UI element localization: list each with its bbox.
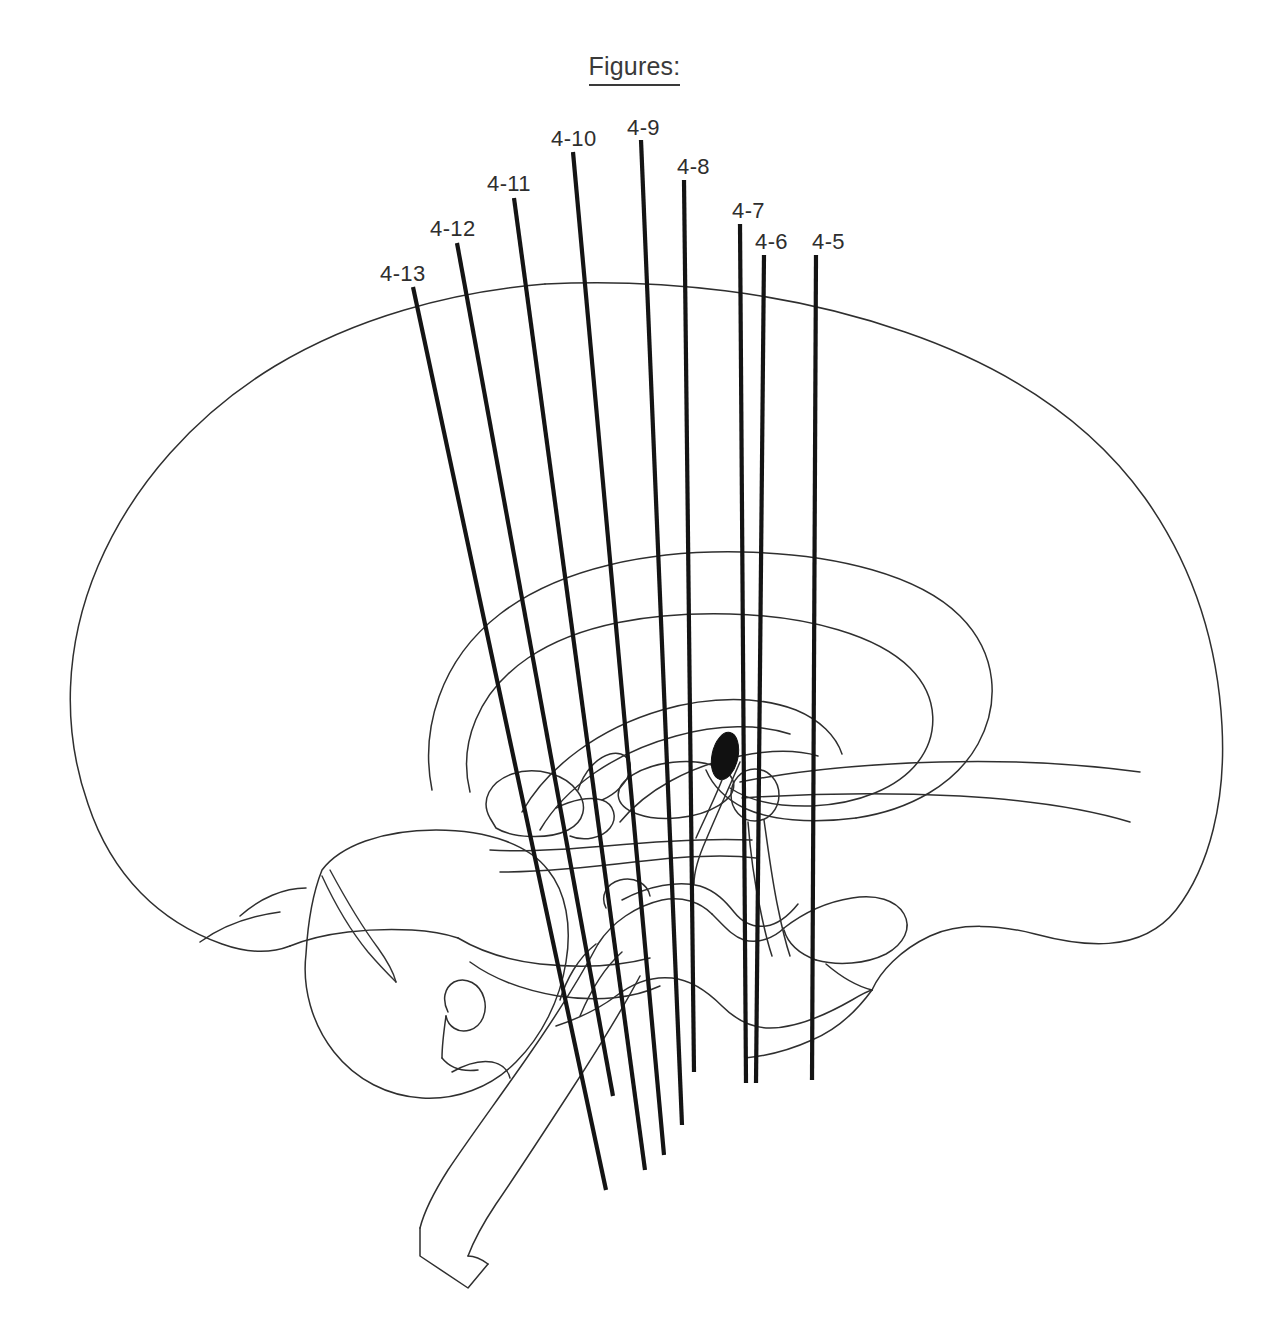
section-line-4-8[interactable] xyxy=(684,180,694,1072)
section-label-4-7[interactable]: 4-7 xyxy=(732,200,765,222)
tegmentum-line xyxy=(712,914,784,941)
section-label-4-13[interactable]: 4-13 xyxy=(380,263,426,285)
anterior-hypothalamic-line xyxy=(696,780,722,838)
section-label-4-6[interactable]: 4-6 xyxy=(755,231,788,253)
cerebral-cortex-outline xyxy=(545,283,1223,990)
medulla-tip-right xyxy=(468,1256,488,1264)
posterior-thalamic-band xyxy=(740,761,1140,782)
lateral-ventricle-outline xyxy=(467,614,933,806)
section-line-4-12[interactable] xyxy=(457,243,613,1096)
pineal-gland xyxy=(707,730,742,782)
brainstem-cerebellum-junction xyxy=(442,1058,478,1071)
cortex-undersurface xyxy=(556,978,872,1028)
section-label-4-11[interactable]: 4-11 xyxy=(487,173,531,195)
cortex-occipital-outline xyxy=(70,284,545,951)
interventricular-foramen xyxy=(578,753,630,800)
cerebellum-outline xyxy=(305,830,568,1098)
section-line-4-6[interactable] xyxy=(756,255,764,1083)
brain-midsagittal-diagram xyxy=(0,0,1269,1328)
figure-canvas: Figures: 4-13 4-12 4-11 4-10 4-9 4-8 4-7… xyxy=(0,0,1269,1328)
section-line-4-7[interactable] xyxy=(740,224,746,1083)
section-label-4-5[interactable]: 4-5 xyxy=(812,231,845,253)
section-label-4-8[interactable]: 4-8 xyxy=(677,156,710,178)
anterior-commissure xyxy=(486,771,583,837)
cerebellar-peduncle xyxy=(445,980,486,1031)
superior-medullary-velum xyxy=(442,1016,446,1058)
posterior-band-lower xyxy=(742,794,1130,822)
section-line-4-11[interactable] xyxy=(514,198,645,1170)
section-label-4-10[interactable]: 4-10 xyxy=(551,128,597,150)
cerebellum-anterior-notch xyxy=(240,888,306,916)
section-label-4-9[interactable]: 4-9 xyxy=(627,117,660,139)
section-plane-lines xyxy=(413,140,816,1190)
section-line-4-10[interactable] xyxy=(573,152,664,1155)
uncus-outline xyxy=(826,964,872,990)
section-line-4-5[interactable] xyxy=(812,255,816,1080)
cerebellum-inner-fold-2 xyxy=(330,870,396,982)
section-label-4-12[interactable]: 4-12 xyxy=(430,218,476,240)
